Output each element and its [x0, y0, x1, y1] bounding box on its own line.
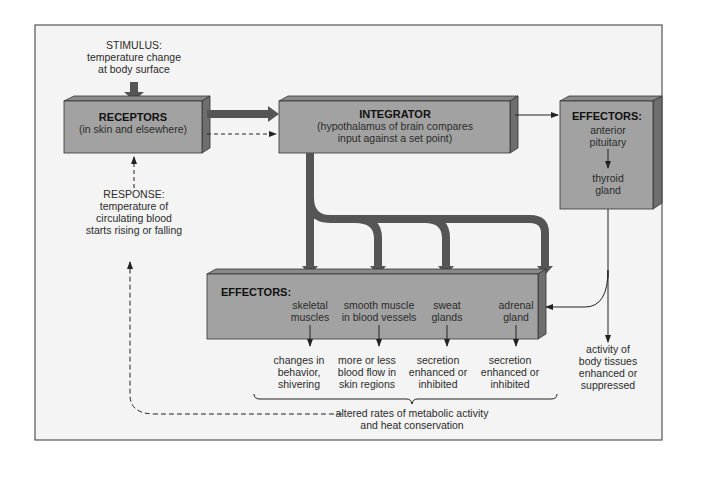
receptors-title: RECEPTORS — [99, 111, 167, 123]
svg-text:secretion: secretion — [489, 354, 532, 366]
svg-text:behavior,: behavior, — [278, 366, 321, 378]
svg-text:shivering: shivering — [278, 378, 320, 390]
summary-line1: altered rates of metabolic activity — [336, 407, 490, 419]
svg-text:gland: gland — [503, 311, 529, 323]
svg-text:skeletal: skeletal — [292, 299, 328, 311]
svg-text:pituitary: pituitary — [590, 136, 628, 148]
svg-text:enhanced or: enhanced or — [579, 367, 638, 379]
svg-text:thyroid: thyroid — [592, 172, 624, 184]
svg-text:temperature of: temperature of — [100, 200, 168, 212]
svg-text:inhibited: inhibited — [490, 378, 529, 390]
svg-text:STIMULUS:: STIMULUS: — [106, 39, 162, 51]
svg-text:adrenal: adrenal — [498, 299, 533, 311]
svg-text:at body surface: at body surface — [98, 63, 170, 75]
svg-text:blood flow in: blood flow in — [338, 366, 397, 378]
svg-text:secretion: secretion — [417, 354, 460, 366]
svg-text:smooth muscle: smooth muscle — [344, 299, 415, 311]
integrator-box: INTEGRATOR (hypothalamus of brain compar… — [279, 96, 518, 153]
svg-text:input against a set point): input against a set point) — [338, 132, 452, 144]
svg-text:circulating blood: circulating blood — [96, 212, 172, 224]
svg-text:body tissues: body tissues — [579, 355, 637, 367]
receptors-box: RECEPTORS (in skin and elsewhere) — [64, 96, 210, 153]
svg-text:RESPONSE:: RESPONSE: — [103, 188, 164, 200]
svg-text:changes in: changes in — [274, 354, 325, 366]
svg-text:enhanced or: enhanced or — [409, 366, 468, 378]
svg-text:glands: glands — [432, 311, 463, 323]
feedback-diagram: STIMULUS: temperature change at body sur… — [0, 0, 722, 477]
svg-text:inhibited: inhibited — [418, 378, 457, 390]
svg-text:more or less: more or less — [338, 354, 396, 366]
svg-text:temperature change: temperature change — [87, 51, 181, 63]
svg-text:enhanced or: enhanced or — [481, 366, 540, 378]
svg-text:(hypothalamus of brain compare: (hypothalamus of brain compares — [317, 120, 473, 132]
svg-text:anterior: anterior — [590, 124, 626, 136]
svg-text:EFFECTORS:: EFFECTORS: — [572, 110, 642, 122]
effectors-endocrine-box: EFFECTORS: anterior pituitary thyroid gl… — [560, 96, 662, 209]
svg-text:suppressed: suppressed — [581, 379, 635, 391]
svg-text:gland: gland — [595, 184, 621, 196]
receptors-sub: (in skin and elsewhere) — [79, 123, 187, 135]
integrator-title: INTEGRATOR — [359, 108, 431, 120]
svg-text:EFFECTORS:: EFFECTORS: — [221, 286, 291, 298]
svg-text:activity of: activity of — [586, 343, 630, 355]
svg-text:sweat: sweat — [433, 299, 461, 311]
svg-text:muscles: muscles — [291, 311, 330, 323]
effectors-bottom-box: EFFECTORS: skeletal muscles smooth muscl… — [207, 269, 546, 339]
summary-line2: and heat conservation — [360, 419, 463, 431]
svg-text:skin regions: skin regions — [339, 378, 395, 390]
svg-text:starts rising or falling: starts rising or falling — [86, 224, 182, 236]
svg-text:in blood vessels: in blood vessels — [342, 311, 417, 323]
